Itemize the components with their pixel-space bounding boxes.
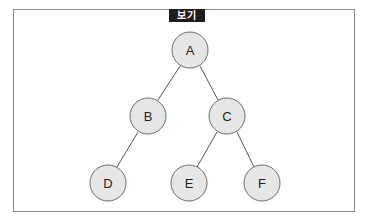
edge-a-b bbox=[158, 66, 180, 100]
node-label: E bbox=[185, 176, 194, 191]
node-e: E bbox=[171, 165, 207, 201]
node-label: F bbox=[258, 176, 266, 191]
node-label: C bbox=[222, 109, 231, 124]
node-f: F bbox=[244, 165, 280, 201]
binary-tree-diagram: A B C D E F bbox=[0, 0, 368, 224]
node-label: B bbox=[144, 109, 153, 124]
edge-c-f bbox=[237, 132, 254, 167]
node-d: D bbox=[90, 165, 126, 201]
edge-b-d bbox=[117, 132, 138, 167]
node-label: A bbox=[186, 43, 195, 58]
node-b: B bbox=[130, 98, 166, 134]
edge-c-e bbox=[197, 132, 217, 167]
node-a: A bbox=[172, 32, 208, 68]
edge-a-c bbox=[200, 66, 218, 100]
node-label: D bbox=[103, 176, 112, 191]
node-c: C bbox=[209, 98, 245, 134]
